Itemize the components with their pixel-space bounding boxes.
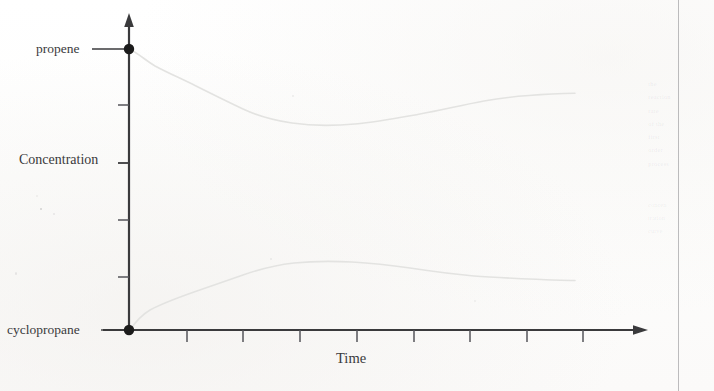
curve-propene	[129, 49, 575, 125]
x-axis-title: Time	[336, 350, 366, 367]
concentration-vs-time-plot	[0, 0, 714, 391]
y-axis-title: Concentration	[19, 152, 98, 168]
figure-page: propene cyclopropane Concentration Time …	[0, 0, 714, 391]
series-label-cyclopropane: cyclopropane	[7, 322, 80, 338]
marker-propene-start	[124, 44, 134, 54]
marker-cyclopropane-start	[124, 325, 134, 335]
y-axis-arrowhead	[124, 13, 134, 27]
page-edge-rule	[678, 0, 679, 391]
curve-cyclopropane	[130, 261, 575, 330]
series-label-propene: propene	[36, 41, 79, 57]
x-axis-arrowhead	[633, 325, 648, 335]
